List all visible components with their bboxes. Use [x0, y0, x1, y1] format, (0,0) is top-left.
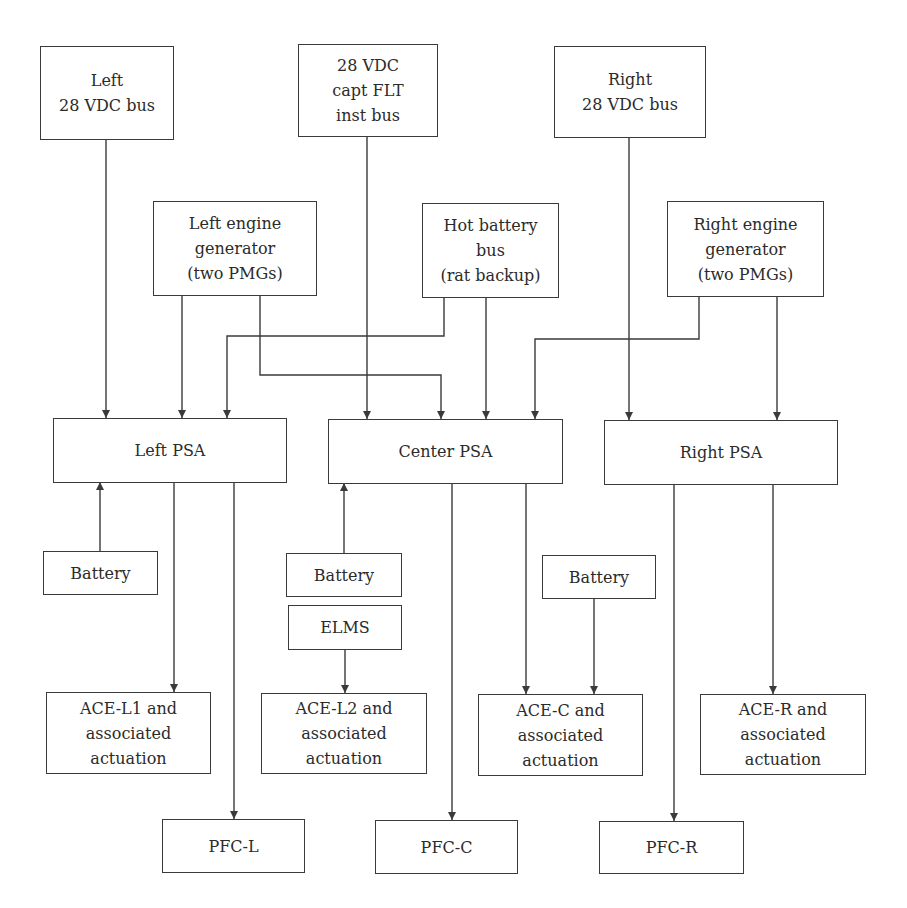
ace-l2-node: ACE-L2 and associated actuation: [261, 693, 427, 774]
elms-node: ELMS: [288, 605, 402, 650]
center-psa-node: Center PSA: [328, 419, 563, 484]
capt-flt-inst-bus-node: 28 VDC capt FLT inst bus: [298, 44, 438, 137]
ace-r-node: ACE-R and associated actuation: [700, 694, 866, 775]
battery-right-node: Battery: [542, 555, 656, 599]
left-psa-node: Left PSA: [53, 418, 287, 483]
ace-l1-node: ACE-L1 and associated actuation: [46, 692, 211, 774]
pfc-c-node: PFC-C: [375, 820, 518, 874]
wire-rightgen-centerpsa: [535, 296, 699, 419]
left-28vdc-bus-node: Left 28 VDC bus: [40, 46, 174, 140]
left-engine-generator-node: Left engine generator (two PMGs): [153, 201, 317, 296]
pfc-r-node: PFC-R: [599, 821, 744, 874]
hot-battery-bus-node: Hot battery bus (rat backup): [422, 203, 559, 298]
right-engine-generator-node: Right engine generator (two PMGs): [667, 201, 824, 297]
pfc-l-node: PFC-L: [162, 819, 305, 873]
wire-leftgen-centerpsa: [260, 295, 441, 419]
ace-c-node: ACE-C and associated actuation: [478, 694, 643, 776]
battery-center-node: Battery: [286, 553, 402, 597]
battery-left-node: Battery: [43, 551, 158, 595]
right-28vdc-bus-node: Right 28 VDC bus: [554, 46, 706, 138]
right-psa-node: Right PSA: [604, 420, 838, 485]
